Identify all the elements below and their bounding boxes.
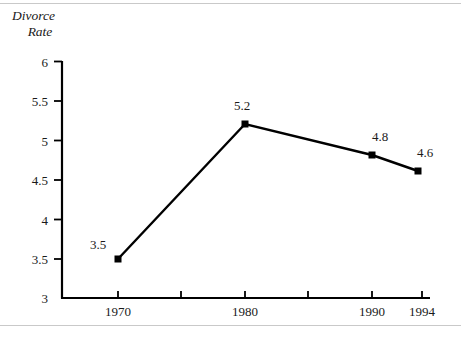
y-tick-label-3-5: 3.5: [8, 253, 48, 266]
x-tick-label-1980: 1980: [215, 305, 275, 318]
x-tick-label-1970: 1970: [88, 305, 148, 318]
y-tick-label-4: 4: [8, 214, 48, 227]
y-tick-label-5-5: 5.5: [8, 95, 48, 108]
y-tick-label-6: 6: [8, 56, 48, 69]
data-point-1994: [415, 168, 422, 175]
y-axis-ticks: [54, 62, 62, 260]
x-tick-label-1994: 1994: [392, 305, 452, 318]
plot-area: [0, 0, 461, 342]
data-label-1970: 3.5: [78, 238, 118, 251]
data-point-1990: [369, 152, 376, 159]
y-tick-label-4-5: 4.5: [8, 174, 48, 187]
data-point-1980: [242, 121, 249, 128]
y-tick-label-3: 3: [8, 292, 48, 305]
data-label-1980: 5.2: [222, 99, 262, 112]
data-line-divorce-rate: [118, 124, 418, 259]
y-tick-label-5: 5: [8, 135, 48, 148]
data-label-1994: 4.6: [405, 146, 445, 159]
data-point-1970: [115, 256, 122, 263]
data-label-1990: 4.8: [360, 130, 400, 143]
divorce-rate-chart-figure: Divorce Rate: [0, 0, 461, 342]
